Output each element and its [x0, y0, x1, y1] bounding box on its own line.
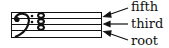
chord-notes — [37, 13, 45, 31]
label-fifth: fifth — [131, 0, 158, 13]
label-third: third — [131, 17, 163, 30]
arrows — [104, 8, 128, 40]
staff — [11, 12, 102, 38]
label-root: root — [131, 34, 158, 47]
bass-clef-icon — [14, 14, 33, 37]
